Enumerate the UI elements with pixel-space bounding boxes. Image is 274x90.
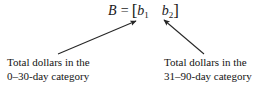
- annotation-caption-right-line-1: Total dollars in the: [164, 56, 252, 70]
- annotation-caption-left-line-2: 0–30-day category: [7, 70, 90, 84]
- annotation-caption-right-line-2: 31–90-day category: [164, 70, 252, 84]
- arrow-left-to-b1: [58, 21, 136, 54]
- annotation-caption-left-line-1: Total dollars in the: [7, 56, 90, 70]
- annotation-caption-left: Total dollars in the 0–30-day category: [7, 56, 90, 83]
- figure-container: B=[b1b2] Total dollars in the 0–30-day c…: [0, 0, 274, 90]
- arrow-right-to-b2: [164, 20, 204, 54]
- annotation-caption-right: Total dollars in the 31–90-day category: [164, 56, 252, 83]
